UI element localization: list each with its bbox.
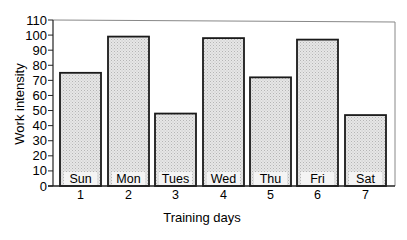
bar-day-label: Mon <box>116 172 140 186</box>
bar-day-label: Sat <box>356 172 375 186</box>
y-axis: 0102030405060708090100110 <box>25 13 53 194</box>
y-tick-label: 80 <box>33 58 47 73</box>
y-tick-label: 110 <box>26 13 47 28</box>
x-axis-label: Training days <box>163 210 241 225</box>
y-axis-label: Work intensity <box>12 63 27 145</box>
bar-mon <box>108 37 149 186</box>
x-tick-label: 6 <box>314 188 321 202</box>
y-tick-label: 20 <box>33 148 47 163</box>
bar-day-label: Fri <box>310 172 325 186</box>
bar-day-label: Sun <box>69 172 91 186</box>
x-tick-label: 2 <box>125 188 132 202</box>
x-tick-label: 5 <box>267 188 274 202</box>
bar-fri <box>297 40 338 186</box>
y-tick-label: 50 <box>33 103 47 118</box>
bar-day-label: Wed <box>211 172 237 186</box>
x-tick-label: 4 <box>220 188 227 202</box>
x-tick-label: 7 <box>362 188 369 202</box>
bars: SunMonTuesWedThuFriSat <box>60 37 386 186</box>
y-tick-label: 0 <box>40 179 47 194</box>
y-tick-label: 40 <box>33 118 47 133</box>
bar-sun <box>60 73 101 186</box>
y-tick-label: 100 <box>25 28 47 43</box>
bar-chart: 0102030405060708090100110 SunMonTuesWedT… <box>0 0 407 240</box>
y-tick-label: 90 <box>33 43 47 58</box>
x-axis: 1234567 <box>48 186 395 202</box>
y-tick-label: 70 <box>33 73 47 88</box>
x-tick-label: 1 <box>77 188 84 202</box>
bar-day-label: Tues <box>162 172 189 186</box>
bar-thu <box>250 77 291 186</box>
x-tick-label: 3 <box>172 188 179 202</box>
bar-day-label: Thu <box>260 172 282 186</box>
y-tick-label: 10 <box>33 163 47 178</box>
y-tick-label: 60 <box>33 88 47 103</box>
bar-wed <box>203 38 244 186</box>
y-tick-label: 30 <box>33 133 47 148</box>
